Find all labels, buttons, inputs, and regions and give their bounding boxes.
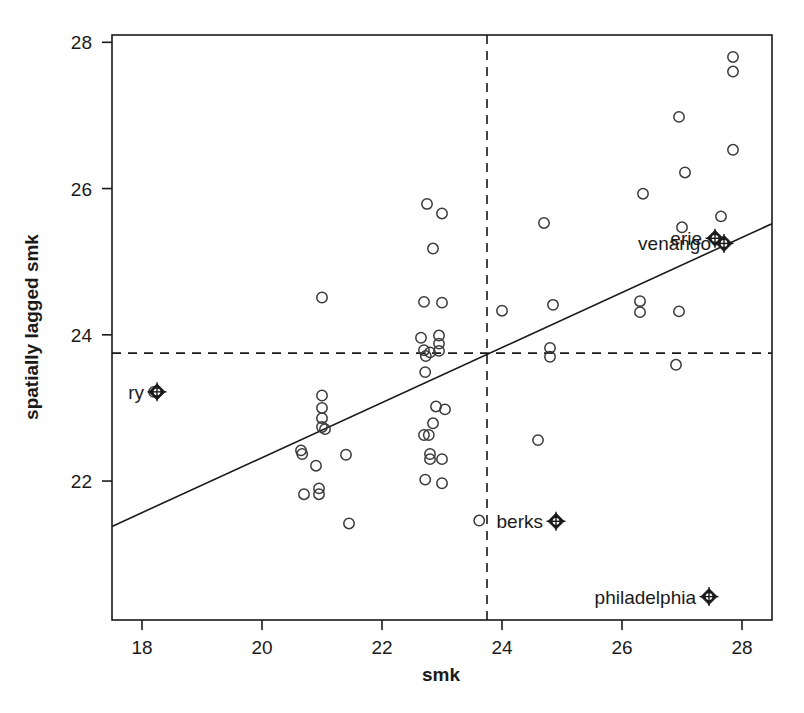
point-label: berks [497, 511, 543, 532]
point-label: venango [638, 233, 711, 254]
y-tick-label: 26 [71, 179, 92, 200]
x-tick-label: 26 [611, 637, 632, 658]
highlighted-point: berks [497, 511, 566, 532]
x-tick-label: 22 [371, 637, 392, 658]
y-tick-label: 22 [71, 471, 92, 492]
x-tick-label: 28 [731, 637, 752, 658]
y-tick-label: 28 [71, 32, 92, 53]
x-tick-label: 20 [251, 637, 272, 658]
y-axis-label: spatially lagged smk [21, 234, 42, 420]
y-tick-label: 24 [71, 325, 93, 346]
x-axis-label: smk [422, 664, 460, 685]
point-label: ry [128, 382, 144, 403]
point-label: philadelphia [595, 587, 697, 608]
plot-canvas: 182022242628 22242628 ryerievenangoberks… [0, 0, 804, 713]
scatter-plot-figure: 182022242628 22242628 ryerievenangoberks… [0, 0, 804, 713]
x-tick-label: 24 [491, 637, 513, 658]
x-tick-label: 18 [131, 637, 152, 658]
